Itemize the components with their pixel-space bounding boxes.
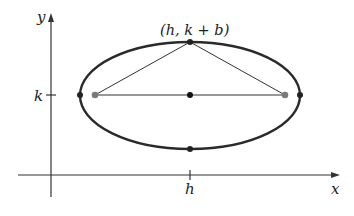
bottom-vertex-point xyxy=(187,146,193,152)
right-focus-point xyxy=(282,92,289,99)
top-vertex-point xyxy=(187,39,193,45)
top-vertex-label: (h, k + b) xyxy=(160,22,229,38)
x-axis-arrow-icon xyxy=(331,172,340,178)
y-axis-arrow-icon xyxy=(48,13,54,22)
right-vertex-point xyxy=(297,92,303,98)
left-focus-point xyxy=(92,92,99,99)
y-axis-label: y xyxy=(36,8,46,26)
ellipse-diagram: y x h k (h, k + b) xyxy=(0,0,354,216)
left-vertex-point xyxy=(77,92,83,98)
y-tick-label-k: k xyxy=(34,87,43,105)
center-point xyxy=(187,92,193,98)
diagram-canvas: y x h k (h, k + b) xyxy=(0,0,354,216)
axes xyxy=(18,13,340,197)
x-tick-label-h: h xyxy=(185,180,195,198)
x-axis-label: x xyxy=(331,180,340,198)
right-focus-to-top xyxy=(190,42,285,95)
left-focus-to-top xyxy=(95,42,190,95)
